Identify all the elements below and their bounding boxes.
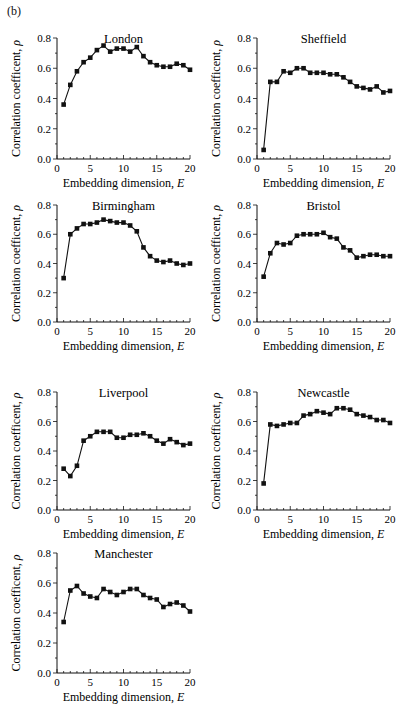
y-axis-label: Correlation coefficent, ρ [9,40,23,157]
x-tick-label: 20 [385,162,397,174]
x-tick-label: 20 [385,325,397,337]
y-tick-label: 0.2 [237,287,251,299]
x-tick-label: 10 [118,676,130,688]
y-tick-label: 0.4 [237,445,251,457]
data-point-marker [61,466,66,471]
data-point-marker [268,80,273,85]
data-point-marker [161,64,166,69]
data-point-marker [315,409,320,414]
data-point-marker [75,69,80,74]
data-point-marker [141,593,146,598]
y-tick-label: 0.4 [37,258,51,270]
data-point-marker [174,61,179,66]
chart-title: London [104,32,144,46]
data-point-marker [75,584,80,589]
x-axis-label: Embedding dimension, E [63,176,185,190]
data-point-marker [281,69,286,74]
data-point-marker [141,54,146,59]
y-tick-label: 0.8 [237,386,251,398]
data-point-marker [161,441,166,446]
x-axis-label: Embedding dimension, E [263,527,385,541]
data-point-marker [181,443,186,448]
data-point-marker [81,222,86,227]
x-tick-label: 5 [88,513,94,525]
data-point-marker [141,431,146,436]
data-point-marker [348,407,353,412]
y-tick-label: 0.0 [37,316,51,328]
y-tick-label: 0.0 [237,316,251,328]
data-point-marker [268,422,273,427]
data-point-marker [135,432,140,437]
data-point-marker [61,620,66,625]
y-tick-label: 0.8 [37,199,51,211]
data-point-marker [261,481,266,486]
data-point-marker [348,248,353,253]
data-point-marker [88,434,93,439]
x-tick-label: 20 [185,676,197,688]
data-line [64,220,190,279]
x-tick-label: 10 [318,162,330,174]
x-tick-label: 20 [185,325,197,337]
x-tick-label: 10 [118,325,130,337]
x-tick-label: 0 [254,513,260,525]
y-tick-label: 0.2 [237,123,251,135]
chart-panel-sheffield: 051015200.00.20.40.60.8SheffieldEmbeddin… [209,32,396,190]
y-axis-label: Correlation coefficent, ρ [9,205,23,322]
chart-title: Birmingham [92,199,155,213]
data-point-marker [301,413,306,418]
data-point-marker [95,430,100,435]
y-axis-label: Correlation coefficent, ρ [9,554,23,671]
data-point-marker [101,43,106,48]
data-point-marker [288,241,293,246]
chart-title: Liverpool [99,386,149,400]
data-point-marker [315,70,320,75]
data-point-marker [115,220,120,225]
data-point-marker [115,593,120,598]
data-point-marker [88,222,93,227]
y-tick-label: 0.8 [37,547,51,559]
x-tick-label: 5 [88,676,94,688]
data-point-marker [275,80,280,85]
data-point-marker [154,597,159,602]
data-point-marker [295,66,300,71]
data-point-marker [95,596,100,601]
data-point-marker [128,587,133,592]
data-point-marker [361,254,366,259]
chart-panel-manchester: 051015200.00.20.40.60.8ManchesterEmbeddi… [9,547,196,704]
y-tick-label: 0.8 [37,386,51,398]
x-tick-label: 10 [318,325,330,337]
data-point-marker [341,75,346,80]
x-axis-label: Embedding dimension, E [63,527,185,541]
y-tick-label: 0.6 [37,62,51,74]
y-tick-label: 0.2 [37,123,51,135]
y-tick-label: 0.2 [37,475,51,487]
data-point-marker [128,49,133,54]
data-point-marker [101,217,106,222]
data-point-marker [308,232,313,237]
y-tick-label: 0.6 [37,416,51,428]
data-point-marker [301,66,306,71]
data-point-marker [75,226,80,231]
data-point-marker [315,232,320,237]
data-point-marker [374,252,379,257]
data-point-marker [154,438,159,443]
data-point-marker [161,605,166,610]
data-point-marker [68,83,73,88]
data-point-marker [308,70,313,75]
data-point-marker [288,421,293,426]
data-point-marker [101,587,106,592]
data-point-marker [154,258,159,263]
y-axis-label: Correlation coefficent, ρ [209,392,223,509]
chart-title: Manchester [94,547,153,561]
x-tick-label: 10 [118,513,130,525]
x-axis-label: Embedding dimension, E [263,176,385,190]
y-tick-label: 0.0 [237,153,251,165]
data-point-marker [168,258,173,263]
y-tick-label: 0.4 [37,445,51,457]
data-point-marker [88,55,93,60]
data-point-marker [188,441,193,446]
data-point-marker [174,261,179,266]
data-point-marker [121,590,126,595]
chart-panel-bristol: 051015200.00.20.40.60.8BristolEmbedding … [209,199,396,353]
data-point-marker [328,72,333,77]
